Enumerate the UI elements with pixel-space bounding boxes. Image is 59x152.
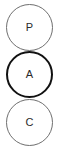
node-label-c: C (25, 117, 33, 128)
node-stack-diagram: P A C (0, 0, 59, 152)
node-circle-c[interactable]: C (6, 99, 53, 146)
node-label-p: P (26, 22, 34, 33)
node-circle-a[interactable]: A (6, 51, 53, 98)
node-circle-p[interactable]: P (6, 4, 53, 51)
node-label-a: A (26, 69, 34, 80)
